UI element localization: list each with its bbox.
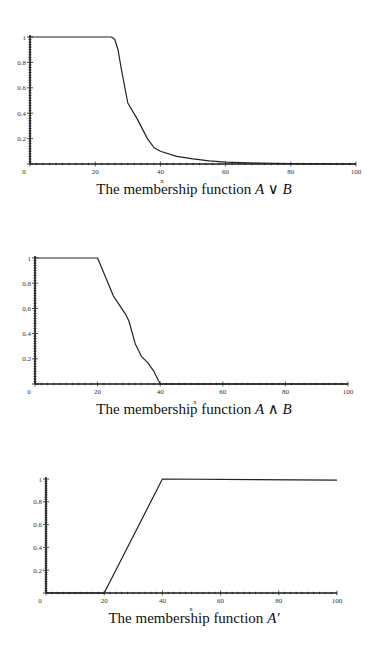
y-tick-label: 0.4 [22,330,31,338]
y-tick-label: 0.6 [33,521,42,529]
y-tick-label: 0.8 [17,59,26,67]
chart-caption: The membership function A ∧ B [96,401,291,417]
y-tick-label: 0.2 [17,135,26,143]
y-tick-label: 0.8 [33,498,42,506]
x-tick-label: 0 [27,388,31,396]
chart-caption: The membership function A′ [108,610,280,626]
membership-function-charts: 0.20.40.60.81020406080100xThe membership… [0,0,377,649]
y-tick-label: 0.8 [22,280,31,288]
x-tick-label: 80 [275,597,283,605]
x-tick-label: 40 [159,597,167,605]
x-tick-label: 100 [343,388,354,396]
x-tick-label: 60 [217,597,225,605]
membership-curve [46,479,337,593]
y-tick-label: 1 [39,476,43,484]
x-tick-label: 80 [282,388,290,396]
x-tick-label: 40 [157,388,165,396]
x-tick-label: 60 [219,388,227,396]
chart-caption: The membership function A ∨ B [96,181,291,197]
x-tick-label: 60 [222,168,230,176]
chart-2: 0.20.40.60.81020406080100xThe membership… [22,255,354,418]
y-tick-label: 0.2 [22,355,31,363]
x-tick-label: 80 [287,168,295,176]
x-tick-label: 20 [94,388,102,396]
y-tick-label: 0.2 [33,567,42,575]
membership-curve [30,37,356,164]
chart-1: 0.20.40.60.81020406080100xThe membership… [17,34,362,198]
x-tick-label: 0 [22,168,26,176]
membership-curve [35,258,348,384]
y-tick-label: 0.4 [33,544,42,552]
chart-3: 0.20.40.60.81020406080100xThe membership… [33,476,343,627]
x-tick-label: 100 [332,597,343,605]
y-tick-label: 0.4 [17,110,26,118]
x-tick-label: 0 [38,597,42,605]
y-tick-label: 0.6 [17,84,26,92]
x-tick-label: 100 [351,168,362,176]
x-tick-label: 20 [101,597,109,605]
y-tick-label: 0.6 [22,305,31,313]
y-tick-label: 1 [23,34,27,42]
x-tick-label: 20 [92,168,100,176]
y-tick-label: 1 [28,255,32,263]
x-tick-label: 40 [157,168,165,176]
